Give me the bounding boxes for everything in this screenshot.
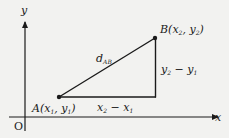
point-b — [153, 36, 157, 40]
horizontal-leg-label: x2 − x1 — [97, 101, 133, 114]
origin-label: O — [14, 120, 23, 133]
hypotenuse-segment — [59, 38, 155, 97]
point-a — [57, 95, 61, 99]
point-b-label: B(x2, y2) — [159, 23, 204, 36]
distance-diagram: y x O B(x2, y2) A(x1, y1) dAB y2 − y1 x2… — [0, 0, 229, 138]
vertical-leg-label: y2 − y1 — [160, 63, 197, 76]
hypotenuse-label: dAB — [96, 52, 112, 65]
point-a-label: A(x1, y1) — [31, 102, 76, 115]
y-axis-label: y — [20, 4, 28, 17]
x-axis-label: x — [215, 111, 222, 124]
